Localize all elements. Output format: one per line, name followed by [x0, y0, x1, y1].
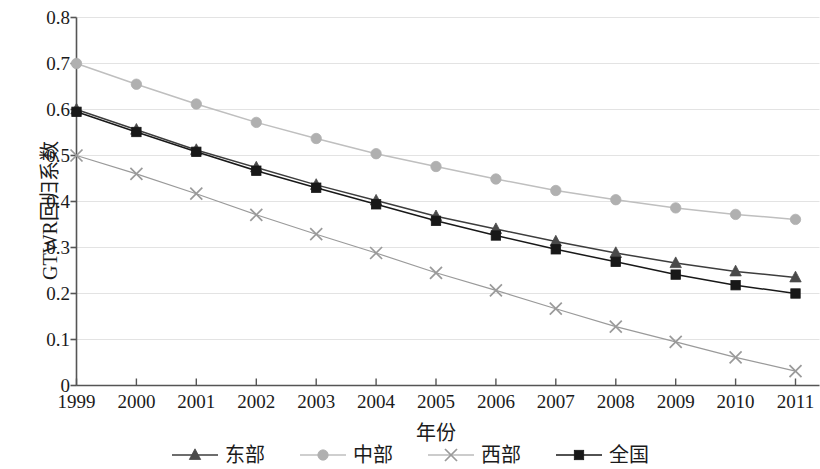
legend-label: 中部: [353, 445, 393, 465]
legend-label: 西部: [481, 445, 521, 465]
chart-figure: GTWR回归系数 00.10.20.30.40.50.60.70.8 19992…: [0, 0, 820, 469]
legend-entry-西部[interactable]: 西部: [427, 445, 521, 465]
legend-entry-全国[interactable]: 全国: [555, 445, 649, 465]
legend-marker-cross-icon: [427, 445, 475, 465]
chart-legend: 东部中部西部全国: [0, 441, 820, 469]
legend-marker-triangle-icon: [171, 445, 219, 465]
legend-marker-square-icon: [555, 445, 603, 465]
legend-label: 东部: [225, 445, 265, 465]
data-point-triangle: [189, 449, 200, 460]
legend-entry-东部[interactable]: 东部: [171, 445, 265, 465]
x-axis-tick-labels: 1999200020012002200320042005200620072008…: [0, 0, 820, 469]
legend-entry-中部[interactable]: 中部: [299, 445, 393, 465]
data-point-square: [574, 450, 583, 459]
x-axis-tick-label: 2011: [756, 392, 820, 411]
data-point-circle: [318, 450, 328, 460]
legend-marker-circle-icon: [299, 445, 347, 465]
legend-label: 全国: [609, 445, 649, 465]
